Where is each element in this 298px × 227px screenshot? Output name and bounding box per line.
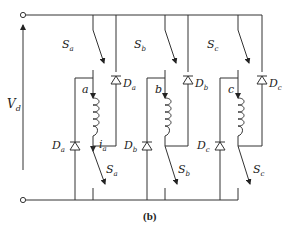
winding-coil-icon (238, 98, 244, 136)
asymmetric-bridge-converter-diagram: Vd Sa Da a ia Da Sa Sb (0, 0, 298, 227)
phase-node-label: a (82, 83, 89, 96)
lower-switch-icon (238, 146, 250, 184)
lower-diode-icon (215, 142, 225, 150)
upper-switch-label: Sc (207, 38, 219, 53)
positive-terminal (20, 12, 25, 17)
phase-node-label: b (155, 83, 162, 96)
winding-coil-icon (93, 98, 99, 136)
lower-switch-label: Sa (106, 163, 118, 178)
lower-diode-label: Da (51, 139, 65, 154)
upper-switch-icon (93, 30, 104, 63)
lower-switch-icon (93, 151, 105, 184)
upper-diode-label: Da (122, 77, 136, 92)
winding-coil-icon (165, 98, 171, 136)
lower-switch-label: Sb (178, 163, 191, 178)
lower-switch-icon (165, 146, 177, 184)
lower-switch-label: Sc (253, 163, 265, 178)
source-voltage-label: Vd (7, 97, 21, 113)
figure-caption: (b) (143, 210, 157, 223)
upper-diode-icon (111, 76, 121, 84)
phase-c: Sc Dc c Dc Sc (196, 15, 282, 200)
upper-diode-label: Db (194, 77, 209, 92)
lower-diode-label: Dc (196, 139, 210, 154)
lower-diode-label: Db (123, 139, 138, 154)
upper-switch-icon (238, 30, 249, 63)
phase-b: Sb Db b Db Sb (123, 15, 209, 200)
upper-switch-label: Sa (62, 38, 74, 53)
phase-a: Sa Da a ia Da Sa (51, 15, 136, 200)
upper-switch-label: Sb (134, 38, 147, 53)
upper-diode-icon (257, 76, 267, 84)
upper-switch-icon (165, 30, 176, 63)
upper-diode-icon (183, 76, 193, 84)
upper-diode-label: Dc (268, 77, 282, 92)
lower-diode-icon (70, 142, 80, 150)
phase-node-label: c (228, 83, 234, 96)
negative-terminal (20, 197, 25, 202)
lower-diode-icon (142, 142, 152, 150)
